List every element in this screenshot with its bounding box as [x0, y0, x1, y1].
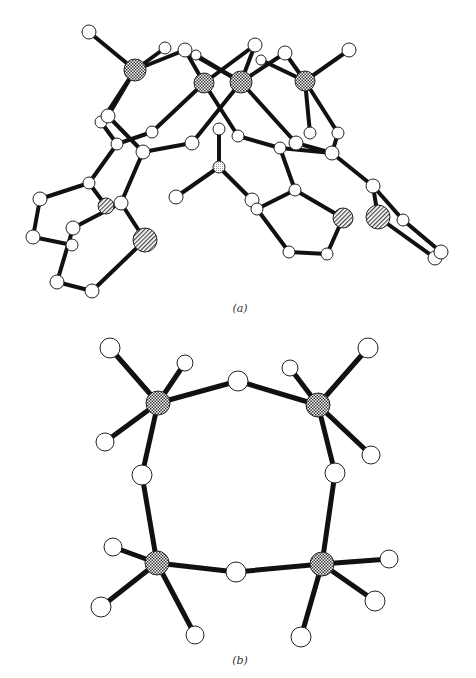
atom	[101, 109, 115, 123]
atom	[380, 550, 398, 568]
caption-a: (a)	[232, 302, 247, 315]
bond	[236, 564, 322, 572]
atoms-a	[26, 25, 448, 298]
atom	[85, 284, 99, 298]
bond	[152, 83, 204, 132]
atom	[100, 338, 120, 358]
bonds-b	[101, 348, 389, 637]
atom	[289, 136, 303, 150]
bond	[332, 153, 373, 186]
atom	[362, 446, 380, 464]
atom	[136, 145, 150, 159]
atom	[91, 597, 111, 617]
atom	[226, 562, 246, 582]
metal-atom	[295, 71, 315, 91]
bond	[57, 228, 73, 282]
bond	[40, 183, 89, 199]
bond	[238, 136, 280, 148]
atom	[213, 123, 225, 135]
atom	[251, 203, 263, 215]
bonds-a	[33, 32, 441, 291]
atom	[66, 221, 80, 235]
atom	[325, 463, 345, 483]
bond	[280, 148, 332, 153]
panel-b-top-view: (b)	[91, 338, 398, 667]
atom	[26, 230, 40, 244]
atom	[132, 465, 152, 485]
atom	[332, 127, 344, 139]
atom	[177, 355, 193, 371]
atom	[289, 184, 301, 196]
atom	[96, 433, 114, 451]
atom	[104, 538, 122, 556]
metal-atom	[146, 391, 170, 415]
atom	[185, 136, 199, 150]
atom	[282, 360, 298, 376]
molecular-structure-figure: (a) (b)	[0, 0, 476, 678]
heteroatom	[333, 208, 353, 228]
atom	[274, 142, 286, 154]
bond	[322, 473, 335, 564]
atom	[278, 46, 292, 60]
atom	[213, 161, 225, 173]
metal-atom	[310, 552, 334, 576]
metal-atom	[145, 551, 169, 575]
atom	[291, 627, 311, 647]
atom	[191, 50, 201, 60]
atom	[186, 626, 204, 644]
atoms-b	[91, 338, 398, 647]
atom	[283, 246, 295, 258]
atom	[321, 248, 333, 260]
atom	[228, 371, 248, 391]
atom	[304, 127, 316, 139]
atom	[83, 177, 95, 189]
atom	[232, 130, 244, 142]
atom	[111, 138, 123, 150]
atom	[178, 43, 192, 57]
atom	[33, 192, 47, 206]
atom	[366, 179, 380, 193]
bond	[89, 144, 117, 183]
atom	[434, 245, 448, 259]
metal-atom	[230, 71, 252, 93]
caption-b: (b)	[232, 654, 248, 667]
atom	[256, 55, 266, 65]
atom	[248, 38, 262, 52]
atom	[50, 275, 64, 289]
bond	[241, 82, 296, 143]
atom	[66, 239, 78, 251]
atom	[397, 214, 409, 226]
heteroatom	[133, 228, 157, 252]
metal-atom	[306, 393, 330, 417]
atom	[365, 591, 385, 611]
atom	[146, 126, 158, 138]
panel-a-side-view: (a)	[26, 25, 448, 315]
bond	[257, 209, 289, 252]
atom	[159, 42, 171, 54]
atom	[169, 190, 183, 204]
heteroatom	[98, 198, 114, 214]
atom	[82, 25, 96, 39]
bond	[176, 167, 219, 197]
metal-atom	[194, 73, 214, 93]
bond	[142, 475, 157, 563]
bond	[121, 152, 143, 203]
atom	[358, 338, 378, 358]
metal-atom	[124, 59, 146, 81]
atom	[114, 196, 128, 210]
bond	[280, 148, 295, 190]
atom	[342, 43, 356, 57]
heteroatom	[366, 205, 390, 229]
atom	[325, 146, 339, 160]
